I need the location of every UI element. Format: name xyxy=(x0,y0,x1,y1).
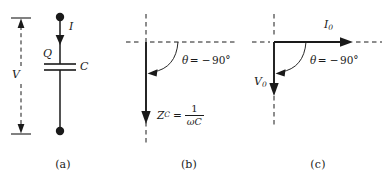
impedance-equation: ZC= 1 ωC xyxy=(157,104,204,126)
minus-sign-b: − xyxy=(200,54,212,66)
current-phasor-arrow xyxy=(274,37,353,46)
voltage-symbol-c: V xyxy=(254,75,262,88)
fraction-numerator: 1 xyxy=(189,104,199,115)
impedance-phasor-arrow xyxy=(141,42,150,124)
angle-arc-c xyxy=(276,42,307,76)
voltage-phasor-label: V0 xyxy=(254,76,267,89)
equals-sign-b: = xyxy=(188,54,200,66)
degree-symbol-c: ° xyxy=(353,54,358,66)
impedance-symbol: Z xyxy=(157,110,164,121)
panel-c: I0 V0 θ=−90° (c) xyxy=(252,0,384,183)
current-phasor-label: I0 xyxy=(324,19,333,32)
panel-b-caption: (b) xyxy=(126,158,252,171)
equals-sign-c: = xyxy=(316,54,328,66)
panel-a: I Q C V (a) xyxy=(0,0,126,183)
capacitance-label-C: C xyxy=(80,61,88,72)
angle-equation-c: θ=−90° xyxy=(310,55,359,66)
panel-a-caption: (a) xyxy=(0,158,126,171)
voltage-phasor-arrow xyxy=(269,42,278,96)
current-arrowhead xyxy=(56,35,65,45)
degree-symbol-b: ° xyxy=(225,54,230,66)
voltage-label-V: V xyxy=(12,69,20,80)
impedance-equals: = xyxy=(170,110,185,121)
panel-b: θ=−90° ZC= 1 ωC (b) xyxy=(126,0,252,183)
bottom-terminal-dot xyxy=(56,127,64,135)
angle-equation-b: θ=−90° xyxy=(182,55,231,66)
charge-label-Q: Q xyxy=(43,48,52,59)
angle-value-b: 90 xyxy=(212,54,225,66)
voltage-subscript-c: 0 xyxy=(262,80,267,89)
angle-value-c: 90 xyxy=(340,54,353,66)
panel-c-caption: (c) xyxy=(252,158,384,171)
impedance-fraction: 1 ωC xyxy=(185,104,204,126)
current-label-I: I xyxy=(69,21,73,32)
panel-a-graphics xyxy=(0,0,126,183)
figure-container: I Q C V (a) xyxy=(0,0,384,183)
panel-c-graphics xyxy=(252,0,384,183)
fraction-denominator: ωC xyxy=(185,117,204,127)
angle-arc xyxy=(148,42,179,76)
panel-b-graphics xyxy=(126,0,252,183)
current-subscript-c: 0 xyxy=(328,23,333,32)
minus-sign-c: − xyxy=(328,54,340,66)
